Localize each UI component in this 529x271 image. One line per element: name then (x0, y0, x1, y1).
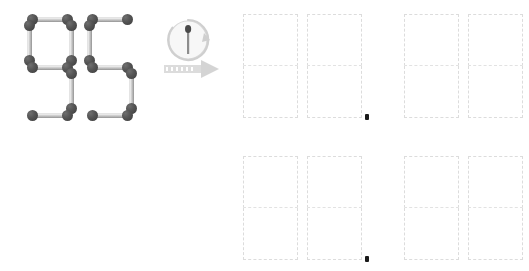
answer-pair[interactable] (404, 14, 525, 122)
slot-box-lower (468, 66, 523, 118)
answer-row (243, 156, 529, 264)
puzzle-canvas (0, 0, 529, 271)
match-segment-top-right[interactable] (66, 20, 77, 66)
answer-pair[interactable] (243, 156, 364, 264)
slot-box-lower (468, 208, 523, 260)
match-head (66, 20, 77, 31)
answer-slot-digit[interactable] (468, 156, 525, 264)
match-head (84, 20, 95, 31)
match-segment-bottom-right[interactable] (66, 68, 77, 114)
cursor-pointer (365, 114, 369, 120)
answer-slot-digit[interactable] (307, 14, 364, 122)
answer-slots (243, 14, 529, 267)
match-segment-bottom-right[interactable] (126, 68, 137, 114)
matchstick-digit-9[interactable] (22, 12, 80, 127)
answer-pair[interactable] (404, 156, 525, 264)
slot-box-lower (404, 66, 459, 118)
match-head (62, 110, 73, 121)
slot-box-upper (404, 14, 459, 66)
answer-slot-digit[interactable] (468, 14, 525, 122)
slot-box-upper (307, 156, 362, 208)
match-head (87, 110, 98, 121)
slot-box-lower (404, 208, 459, 260)
match-head (66, 68, 77, 79)
match-head (122, 110, 133, 121)
match-head (24, 20, 35, 31)
matchstick-digit-5[interactable] (82, 12, 140, 127)
slot-box-upper (468, 156, 523, 208)
answer-slot-digit[interactable] (243, 156, 300, 264)
slot-box-upper (243, 156, 298, 208)
slot-box-lower (243, 208, 298, 260)
move-one-matchstick-icon (163, 18, 229, 80)
icon-match-shaft (187, 30, 189, 54)
slot-box-lower (307, 208, 362, 260)
answer-slot-digit[interactable] (243, 14, 300, 122)
match-segment-top-left[interactable] (24, 20, 35, 66)
slot-box-lower (307, 66, 362, 118)
answer-slot-digit[interactable] (307, 156, 364, 264)
given-expression (22, 12, 152, 127)
match-segment-bottom[interactable] (87, 110, 133, 121)
answer-row (243, 14, 529, 122)
icon-match-head (185, 25, 191, 33)
match-head (87, 62, 98, 73)
answer-pair[interactable] (243, 14, 364, 122)
slot-box-upper (468, 14, 523, 66)
slot-box-upper (307, 14, 362, 66)
match-head (27, 62, 38, 73)
slot-box-lower (243, 66, 298, 118)
match-segment-bottom[interactable] (27, 110, 73, 121)
match-segment-top-left[interactable] (84, 20, 95, 66)
answer-slot-digit[interactable] (404, 14, 461, 122)
match-head (27, 110, 38, 121)
slot-box-upper (404, 156, 459, 208)
answer-slot-digit[interactable] (404, 156, 461, 264)
cursor-pointer (365, 256, 369, 262)
match-head (126, 68, 137, 79)
right-arrow-icon (164, 60, 219, 78)
match-head (122, 14, 133, 25)
slot-box-upper (243, 14, 298, 66)
